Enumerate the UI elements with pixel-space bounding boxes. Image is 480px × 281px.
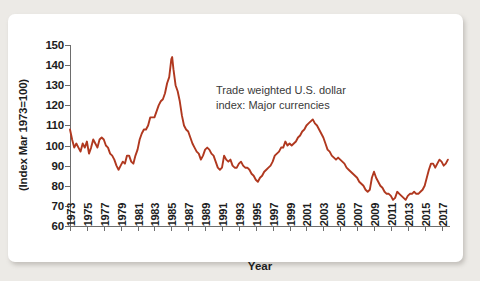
x-tick <box>205 226 206 231</box>
x-tick-label: 1975 <box>82 203 94 226</box>
x-tick <box>340 226 341 231</box>
x-tick-label: 1981 <box>133 203 145 226</box>
plot-area <box>70 45 450 226</box>
x-tick-label: 2011 <box>386 203 398 226</box>
x-tick <box>70 226 71 231</box>
x-tick-label: 1999 <box>285 203 297 226</box>
x-tick <box>374 226 375 231</box>
x-tick <box>442 226 443 231</box>
x-tick-label: 1979 <box>116 203 128 226</box>
y-tick-label: 120 <box>45 99 64 111</box>
x-tick <box>290 226 291 231</box>
y-tick-label: 140 <box>45 59 64 71</box>
x-tick-label: 2003 <box>318 203 330 226</box>
y-tick-label: 80 <box>52 180 64 192</box>
x-tick-label: 2015 <box>420 203 432 226</box>
x-tick <box>391 226 392 231</box>
x-tick-label: 2013 <box>403 203 415 226</box>
y-tick-label: 110 <box>46 119 64 131</box>
x-tick <box>138 226 139 231</box>
x-tick <box>222 226 223 231</box>
x-tick-label: 2007 <box>352 203 364 226</box>
x-tick-label: 1989 <box>200 203 212 226</box>
y-tick-label: 60 <box>52 220 64 232</box>
x-tick-label: 1995 <box>251 203 263 226</box>
x-tick-label: 1985 <box>166 203 178 226</box>
x-tick <box>121 226 122 231</box>
y-tick-label: 100 <box>45 140 64 152</box>
x-tick-label: 1993 <box>234 203 246 226</box>
y-tick-label: 90 <box>52 160 64 172</box>
x-tick <box>87 226 88 231</box>
x-tick <box>425 226 426 231</box>
x-tick-label: 1987 <box>183 203 195 226</box>
x-tick-label: 1997 <box>268 203 280 226</box>
x-tick <box>104 226 105 231</box>
x-tick-label: 1983 <box>149 203 161 226</box>
x-tick-label: 1977 <box>99 203 111 226</box>
x-tick-label: 2009 <box>369 203 381 226</box>
chart-card: (Index Mar 1973=100) 1501401301201101009… <box>8 14 463 262</box>
x-tick-label: 2001 <box>301 203 313 226</box>
x-axis-title: Year <box>70 260 450 272</box>
x-tick-label: 2005 <box>335 203 347 226</box>
chart-annotation: Trade weighted U.S. dollar index: Major … <box>216 83 346 113</box>
x-tick <box>171 226 172 231</box>
x-tick <box>239 226 240 231</box>
x-tick <box>154 226 155 231</box>
y-tick-label: 70 <box>52 200 64 212</box>
x-tick <box>408 226 409 231</box>
x-tick-label: 1991 <box>217 203 229 226</box>
screenshot-root: (Index Mar 1973=100) 1501401301201101009… <box>0 0 480 281</box>
series-path-major-currencies <box>70 57 448 200</box>
data-series-line <box>70 45 450 226</box>
x-tick <box>273 226 274 231</box>
x-tick <box>306 226 307 231</box>
y-tick-label: 150 <box>45 39 64 51</box>
x-tick <box>256 226 257 231</box>
x-tick-label: 1973 <box>65 203 77 226</box>
x-tick-label: 2017 <box>437 203 449 226</box>
y-tick-label: 130 <box>45 79 64 91</box>
x-tick <box>357 226 358 231</box>
y-tick-label-group: 15014013012011010090807060 <box>8 45 64 226</box>
x-tick <box>323 226 324 231</box>
x-tick <box>188 226 189 231</box>
